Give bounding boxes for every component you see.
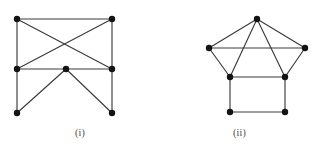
- graph-vertex: [206, 45, 212, 51]
- graph-vertex: [14, 16, 20, 22]
- graph-edge: [209, 48, 230, 77]
- graph-i-caption: (i): [0, 126, 160, 140]
- graph-vertex: [14, 66, 20, 72]
- graph-vertex: [282, 74, 288, 80]
- graph-i-canvas: [0, 0, 160, 126]
- figure-board: (i) (ii): [0, 0, 319, 152]
- graph-figure-i: (i): [0, 0, 160, 152]
- graph-ii-caption: (ii): [160, 126, 319, 140]
- graph-edge: [66, 69, 112, 113]
- graph-vertex: [302, 45, 308, 51]
- graph-vertex: [14, 110, 20, 116]
- graph-vertex: [227, 74, 233, 80]
- graph-edge: [17, 69, 66, 113]
- graph-vertex: [109, 16, 115, 22]
- graph-vertex: [109, 110, 115, 116]
- graph-ii-canvas: [160, 0, 319, 126]
- graph-vertex: [254, 16, 260, 22]
- graph-edge: [285, 48, 305, 77]
- graph-vertex: [227, 109, 233, 115]
- graph-figure-ii: (ii): [160, 0, 319, 152]
- graph-vertex: [63, 66, 69, 72]
- graph-vertex: [282, 109, 288, 115]
- graph-vertex: [109, 66, 115, 72]
